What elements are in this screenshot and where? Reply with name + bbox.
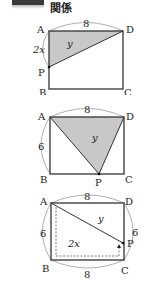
vertex-d: D	[126, 111, 134, 122]
vertex-a: A	[36, 24, 45, 35]
vertex-c: C	[124, 87, 132, 95]
diagram-1: A D B C P 8 2x y	[0, 0, 154, 95]
area-label: y	[91, 132, 98, 143]
area-label: y	[66, 38, 73, 49]
area-label: y	[97, 213, 104, 224]
vertex-a: A	[39, 196, 48, 207]
path-label: 2x	[67, 238, 80, 249]
vertex-d: D	[126, 24, 134, 35]
side-right-label: 6	[132, 227, 138, 238]
vertex-b: B	[40, 174, 47, 185]
diagram-2: A D B C P 8 6 y	[0, 95, 154, 190]
side-left-label: 6	[40, 228, 46, 239]
side-top-label: 8	[83, 18, 89, 29]
vertex-d: D	[125, 196, 133, 207]
side-bottom-label: 8	[84, 269, 90, 280]
side-left-label: 6	[38, 141, 44, 152]
vertex-c: C	[125, 174, 133, 185]
side-top-label: 8	[84, 191, 90, 202]
side-left-label: 2x	[32, 44, 45, 55]
vertex-p: P	[38, 67, 45, 78]
vertex-a: A	[37, 111, 46, 122]
diagram-3: A D B C P 8 6 6 8 y 2x	[0, 185, 154, 283]
vertex-b: B	[42, 263, 49, 274]
vertex-c: C	[121, 265, 129, 276]
side-top-label: 8	[84, 104, 90, 115]
vertex-b: B	[39, 87, 46, 95]
vertex-p: P	[127, 238, 134, 249]
